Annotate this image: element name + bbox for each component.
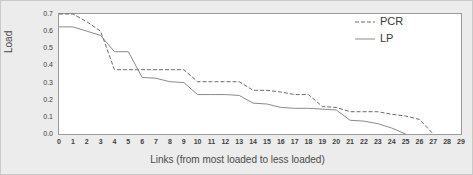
y-tick-label: 0.6 <box>31 27 53 34</box>
plot-canvas <box>1 1 473 175</box>
y-tick-label: 0.0 <box>31 130 53 137</box>
chart-figure: Load Links (from most loaded to less loa… <box>0 0 473 175</box>
x-axis-label: Links (from most loaded to less loaded) <box>1 154 473 165</box>
y-tick-label: 0.5 <box>31 44 53 51</box>
y-tick-label: 0.3 <box>31 79 53 86</box>
y-tick-label: 0.1 <box>31 113 53 120</box>
y-axis-label: Load <box>3 31 14 53</box>
legend-label-lp: LP <box>380 32 393 44</box>
y-tick-label: 0.7 <box>31 10 53 17</box>
legend-label-pcr: PCR <box>380 15 403 27</box>
y-tick-label: 0.2 <box>31 96 53 103</box>
plot-area-background <box>59 14 462 135</box>
y-tick-label: 0.4 <box>31 61 53 68</box>
x-tick-label: 29 <box>453 138 469 145</box>
